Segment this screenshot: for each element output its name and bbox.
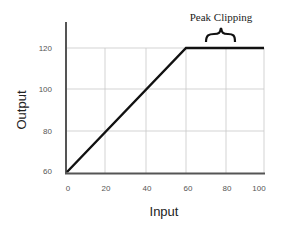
x-tick-100: 100 bbox=[252, 184, 266, 193]
y-tick-80: 80 bbox=[43, 127, 52, 136]
y-axis-title: Output bbox=[14, 90, 29, 129]
peak-clipping-label: Peak Clipping bbox=[190, 11, 253, 23]
x-tick-60: 60 bbox=[184, 184, 193, 193]
y-tick-60: 60 bbox=[43, 167, 52, 176]
x-tick-0: 0 bbox=[66, 184, 71, 193]
chart: 120 100 80 60 0 20 40 60 80 100 Input Ou… bbox=[0, 0, 281, 230]
y-tick-120: 120 bbox=[39, 44, 53, 53]
x-tick-80: 80 bbox=[223, 184, 232, 193]
x-tick-40: 40 bbox=[143, 184, 152, 193]
x-tick-labels: 0 20 40 60 80 100 bbox=[66, 184, 266, 193]
y-tick-labels: 120 100 80 60 bbox=[39, 44, 53, 176]
x-axis-title: Input bbox=[150, 204, 179, 219]
x-tick-20: 20 bbox=[102, 184, 111, 193]
output-line bbox=[67, 48, 264, 172]
curly-brace-icon bbox=[206, 28, 235, 42]
grid-lines bbox=[65, 48, 264, 173]
y-tick-100: 100 bbox=[39, 85, 53, 94]
